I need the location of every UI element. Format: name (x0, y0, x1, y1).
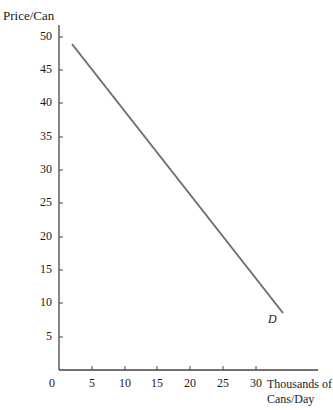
x-tick-label: 20 (178, 376, 202, 391)
demand-curve (72, 44, 283, 313)
y-tick-label: 10 (22, 295, 52, 310)
x-axis-label-line1: Thousands of (267, 377, 332, 392)
x-axis-label: Thousands of Cans/Day (267, 377, 332, 407)
y-tick-label: 30 (22, 162, 52, 177)
demand-curve-label: D (268, 312, 277, 327)
x-tick-label: 30 (244, 376, 268, 391)
x-axis-label-line2: Cans/Day (267, 392, 332, 407)
x-tick-label: 15 (145, 376, 169, 391)
y-tick-label: 45 (22, 62, 52, 77)
x-tick-label: 10 (113, 376, 137, 391)
x-tick-label: 5 (80, 376, 104, 391)
y-tick-label: 50 (22, 29, 52, 44)
y-tick-label: 20 (22, 229, 52, 244)
y-tick-label: 35 (22, 129, 52, 144)
x-tick-label: 25 (211, 376, 235, 391)
y-tick-label: 40 (22, 95, 52, 110)
x-tick-label: 0 (40, 376, 64, 391)
y-tick-label: 15 (22, 262, 52, 277)
y-tick-label: 5 (22, 329, 52, 344)
y-tick-label: 25 (22, 195, 52, 210)
